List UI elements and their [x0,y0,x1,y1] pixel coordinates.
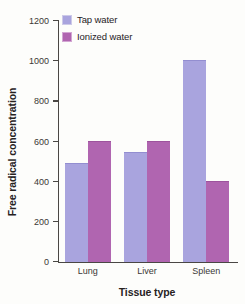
y-axis-tick-label: 1000 [29,55,49,67]
y-axis-tick-label: 400 [34,176,49,188]
y-axis-tick-label: 800 [34,95,49,107]
y-axis-tick-label: 0 [44,256,49,268]
legend-item-tap-water: Tap water [62,12,132,27]
legend-item-label: Ionized water [77,31,132,42]
y-axis-tick: 0 [0,256,58,268]
bar-liver-ionized-water [147,141,170,263]
legend-swatch-tap-water [62,15,72,25]
bar-lung-ionized-water [88,141,111,263]
y-axis-tick: 600 [0,136,58,148]
x-axis-tick-label-spleen: Spleen [177,266,236,276]
bar-spleen-tap-water [183,60,206,262]
y-axis-tick-label: 600 [34,136,49,148]
y-axis-tick: 200 [0,216,58,228]
chart-legend: Tap waterIonized water [62,12,132,46]
plot-area [58,21,236,262]
y-axis-tick: 1000 [0,55,58,67]
x-axis-tick-label-liver: Liver [117,266,176,276]
x-axis-title: Tissue type [58,286,236,298]
y-axis-tick: 1200 [0,15,58,27]
y-axis-tick: 400 [0,176,58,188]
legend-item-ionized-water: Ionized water [62,29,132,44]
y-axis-tick: 800 [0,95,58,107]
bar-chart-figure: Free radical concentration 0200400600800… [0,0,245,304]
x-axis-line [58,262,238,263]
legend-item-label: Tap water [77,14,117,25]
bar-lung-tap-water [65,163,88,262]
bar-liver-tap-water [124,152,147,262]
y-axis-tick-label: 1200 [29,15,49,27]
bar-spleen-ionized-water [206,181,229,262]
x-axis-tick-label-lung: Lung [58,266,117,276]
y-axis-tick-label: 200 [34,216,49,228]
legend-swatch-ionized-water [62,32,72,42]
